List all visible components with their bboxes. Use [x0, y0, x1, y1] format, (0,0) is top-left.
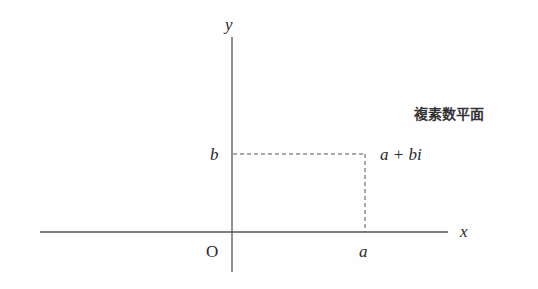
y-axis-label: y — [225, 16, 233, 33]
origin-label: O — [206, 243, 218, 260]
complex-plane-diagram: y x O b a a + bi 複素数平面 — [0, 0, 538, 289]
x-axis-label: x — [460, 223, 468, 240]
imag-part-label: b — [210, 146, 219, 163]
real-part-label: a — [359, 243, 368, 260]
diagram-title: 複素数平面 — [414, 107, 484, 121]
diagram-lines — [0, 0, 538, 289]
point-label: a + bi — [380, 146, 422, 163]
